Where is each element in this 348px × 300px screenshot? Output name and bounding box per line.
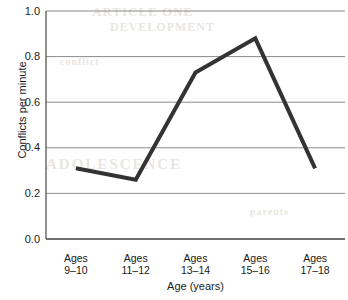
x-axis-tick-label-line: Ages bbox=[280, 252, 348, 264]
axis-lines bbox=[46, 11, 345, 239]
data-series-line bbox=[76, 38, 315, 179]
y-axis-tick-label: 1.0 bbox=[10, 6, 40, 17]
gridlines bbox=[46, 11, 345, 239]
y-axis-title: Conflicts per minute bbox=[16, 40, 28, 180]
line-chart: ARTICLE ONE DEVELOPMENT ADOLESCENCE conf… bbox=[0, 0, 348, 300]
y-axis-tick-label: 0.2 bbox=[10, 188, 40, 199]
x-axis-tick-label-line: 17–18 bbox=[280, 264, 348, 276]
x-axis-tick-label: Ages17–18 bbox=[280, 252, 348, 276]
y-axis-tick-label: 0.0 bbox=[10, 234, 40, 245]
x-axis-title: Age (years) bbox=[46, 280, 345, 292]
